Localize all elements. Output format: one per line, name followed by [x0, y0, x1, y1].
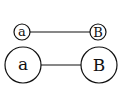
node-small-a: a: [14, 24, 30, 40]
node-large-a-label: a: [18, 54, 28, 74]
node-large-b-label: B: [93, 55, 106, 75]
node-large-a: a: [5, 47, 41, 83]
node-small-b: B: [90, 24, 106, 40]
node-small-a-label: a: [18, 24, 26, 39]
node-small-b-label: B: [93, 25, 103, 40]
row-large: a B: [5, 47, 117, 83]
diagram-canvas: a B a B: [0, 0, 127, 87]
row-small: a B: [14, 24, 106, 40]
node-large-b: B: [81, 47, 117, 83]
